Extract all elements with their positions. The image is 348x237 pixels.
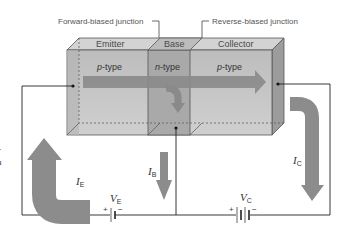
vc-plus: +	[229, 205, 234, 214]
base-current-arrow-shaft	[160, 152, 168, 182]
collector-type-label: p-type	[216, 62, 242, 72]
ib-label: IB	[147, 165, 157, 178]
ic-label: IC	[292, 154, 302, 167]
ie-label: IE	[75, 175, 85, 188]
emitter-battery: + − VE	[103, 192, 123, 222]
clipped-text-line-1: -	[0, 144, 1, 154]
vc-label: VC	[240, 191, 252, 204]
ve-plus: +	[103, 205, 108, 214]
ve-label: VE	[110, 192, 122, 205]
collector-battery: + − VC	[229, 191, 257, 223]
emitter-label: Emitter	[96, 39, 125, 49]
base-label: Base	[164, 39, 185, 49]
emitter-left-edge	[67, 50, 79, 135]
reverse-biased-junction-label: Reverse-biased junction	[212, 17, 298, 26]
collector-current-arrow-head	[301, 185, 324, 201]
base-current-arrow-head	[156, 180, 172, 200]
base-type-label: n-type	[155, 62, 180, 72]
vc-minus: −	[252, 205, 257, 214]
ve-minus: −	[118, 205, 123, 214]
transistor-diagram: Forward-biased junction Reverse-biased j…	[0, 0, 348, 237]
collector-label: Collector	[218, 39, 254, 49]
emitter-type-label: p-type	[96, 62, 122, 72]
clipped-text-line-2: n	[0, 157, 2, 167]
emitter-current-arrow-head	[27, 138, 62, 160]
collector-current-arrow-shaft	[290, 104, 312, 185]
block-side-face	[272, 38, 284, 135]
forward-biased-junction-label: Forward-biased junction	[58, 17, 143, 26]
